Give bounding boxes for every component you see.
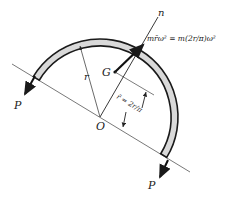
force-p-left-arrow <box>25 76 35 94</box>
n-axis-label: n <box>158 7 164 18</box>
semicircular-rod <box>33 10 207 158</box>
centroid-label: G <box>102 66 111 79</box>
rbar-arrow-top <box>142 92 146 108</box>
centripetal-force-label: mr̄ω² = m(2r/π)ω² <box>147 34 216 43</box>
force-p-left-label: P <box>13 99 22 112</box>
radius-label: r <box>84 71 90 82</box>
radius-line <box>80 46 100 117</box>
rod-diagram: n r G O r̄ = 2r/π mr̄ω² = m(2r/π)ω² P P <box>0 0 234 201</box>
rbar-dimension-label: r̄ = 2r/π <box>115 93 144 115</box>
rbar-arrow-bottom <box>123 112 126 127</box>
rbar-extension-line <box>115 72 154 95</box>
force-p-right-label: P <box>147 179 156 192</box>
force-p-right-arrow <box>160 160 168 177</box>
pivot-label: O <box>96 120 105 133</box>
